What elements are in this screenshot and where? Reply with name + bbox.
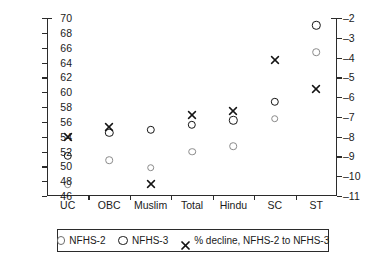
x-tick [296,195,297,200]
data-point [147,164,155,172]
left-tick [42,63,47,64]
category-label-total: Total [181,200,203,211]
left-tick [42,137,47,138]
right-tick-label: –7 [343,112,369,123]
data-point [105,122,114,131]
data-point [188,110,197,119]
right-y-axis-line [336,18,337,196]
legend-label: NFHS-3 [132,236,168,246]
data-point [105,157,113,165]
legend-entry[interactable]: NFHS-3 [118,236,168,246]
left-tick [42,33,47,34]
legend-label: NFHS-2 [69,236,105,246]
right-tick [337,176,342,177]
left-tick [42,107,47,108]
left-tick-label: 60 [50,87,72,98]
legend-entry[interactable]: % decline, NFHS-2 to NFHS-3 [181,236,329,246]
left-tick [42,18,47,19]
data-point [229,116,237,124]
x-axis-line [47,195,337,196]
right-tick [337,77,342,78]
category-label-uc: UC [60,200,75,211]
left-tick-label: 52 [50,147,72,158]
left-tick-label: 68 [50,28,72,39]
x-cross-marker-icon [181,236,190,245]
left-tick-label: 66 [50,43,72,54]
right-tick-label: –3 [343,33,369,44]
category-label-obc: OBC [98,200,121,211]
chart-legend: NFHS-2NFHS-3% decline, NFHS-2 to NFHS-3 [57,229,329,252]
right-tick-label: –5 [343,72,369,83]
right-tick [337,156,342,157]
left-tick [42,48,47,49]
data-point [188,121,196,129]
data-point [271,115,279,123]
data-point [146,126,154,134]
legend-label: % decline, NFHS-2 to NFHS-3 [194,236,329,246]
left-tick-label: 70 [50,13,72,24]
left-tick-label: 62 [50,72,72,83]
left-tick [42,181,47,182]
category-label-st: ST [310,200,323,211]
right-tick [337,18,342,19]
data-point [230,143,238,151]
left-tick-label: 56 [50,117,72,128]
x-tick [171,195,172,200]
right-tick-label: –6 [343,92,369,103]
category-label-muslim: Muslim [134,200,167,211]
x-tick [130,195,131,200]
data-point [188,148,196,156]
data-point [146,180,155,189]
nfhs2-marker-icon [57,236,66,245]
left-tick [42,122,47,123]
right-tick-label: –2 [343,13,369,24]
right-tick-label: –11 [343,191,369,202]
right-axis-top-cap [331,18,336,19]
data-point [312,21,320,29]
nfhs3-marker-icon [118,236,128,246]
data-point [312,85,321,94]
data-point [271,98,279,106]
right-tick [337,117,342,118]
data-point [312,48,320,56]
right-tick [337,196,342,197]
category-label-hindu: Hindu [220,200,247,211]
right-tick [337,38,342,39]
left-tick-label: 64 [50,58,72,69]
data-point [270,55,279,64]
right-tick-label: –8 [343,132,369,143]
left-tick [42,166,47,167]
category-label-sc: SC [268,200,283,211]
left-tick-label: 54 [50,132,72,143]
left-tick-label: 48 [50,176,72,187]
legend-entry[interactable]: NFHS-2 [57,236,106,246]
chart-container: 46485052545658606264666870 –11–10–9–8–7–… [0,0,385,262]
right-tick-label: –9 [343,151,369,162]
left-tick [42,77,47,78]
right-tick [337,137,342,138]
left-tick [42,92,47,93]
right-tick [337,58,342,59]
x-tick [88,195,89,200]
x-tick [254,195,255,200]
right-tick [337,97,342,98]
right-tick-label: –10 [343,171,369,182]
data-point [229,106,238,115]
left-tick [42,196,47,197]
left-y-axis-line [47,18,48,196]
right-tick-label: –4 [343,53,369,64]
left-tick [42,152,47,153]
left-tick-label: 50 [50,161,72,172]
x-tick [213,195,214,200]
left-tick-label: 58 [50,102,72,113]
plot-area [47,18,337,196]
